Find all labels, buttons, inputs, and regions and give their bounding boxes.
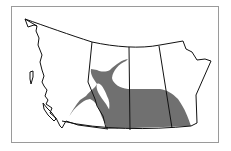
range-map bbox=[0, 0, 231, 151]
vancouver-island bbox=[43, 103, 56, 121]
haida-gwaii bbox=[30, 71, 33, 84]
